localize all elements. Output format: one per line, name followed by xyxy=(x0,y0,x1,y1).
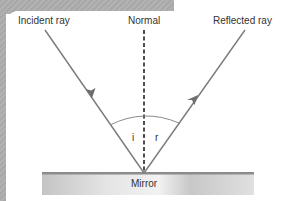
angle-i-label: i xyxy=(132,132,134,143)
angle-r-label: r xyxy=(155,132,158,143)
mirror-label: Mirror xyxy=(131,178,157,189)
reflected-ray-label: Reflected ray xyxy=(213,15,272,26)
reflection-diagram xyxy=(0,0,290,201)
normal-label: Normal xyxy=(128,15,160,26)
incident-ray xyxy=(45,30,144,173)
incident-ray-label: Incident ray xyxy=(18,15,70,26)
